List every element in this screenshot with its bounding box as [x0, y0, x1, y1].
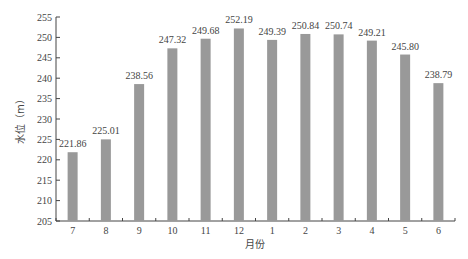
bar-value-label: 221.86	[59, 138, 87, 149]
bar	[134, 84, 144, 221]
bar	[267, 40, 277, 221]
bar	[433, 83, 443, 221]
bar-value-label: 245.80	[391, 41, 419, 52]
x-tick-label: 11	[201, 225, 211, 236]
bar	[101, 139, 111, 221]
x-axis: 789101112123456	[56, 218, 455, 236]
x-tick-label: 9	[137, 225, 142, 236]
bar-value-label: 252.19	[225, 14, 253, 25]
y-axis: 205210215220225230235240245250255	[37, 12, 60, 227]
x-axis-title: 月份	[245, 239, 265, 250]
bar-value-label: 249.21	[358, 27, 386, 38]
y-tick-label: 235	[37, 93, 52, 104]
bar	[367, 41, 377, 221]
bar	[334, 34, 344, 221]
x-tick-label: 12	[234, 225, 244, 236]
bar-value-label: 249.68	[192, 25, 220, 36]
bar	[68, 152, 78, 221]
bar	[234, 28, 244, 221]
y-tick-label: 255	[37, 12, 52, 23]
bar-value-label: 249.39	[258, 26, 286, 37]
y-tick-label: 215	[37, 175, 52, 186]
x-tick-label: 5	[403, 225, 408, 236]
y-tick-label: 245	[37, 52, 52, 63]
x-tick-label: 1	[270, 225, 275, 236]
bar-value-label: 225.01	[92, 125, 120, 136]
x-tick-label: 3	[336, 225, 341, 236]
y-tick-label: 225	[37, 134, 52, 145]
bar-value-label: 250.74	[325, 20, 353, 31]
y-tick-label: 220	[37, 154, 52, 165]
y-tick-label: 205	[37, 216, 52, 227]
bar-value-label: 247.32	[159, 34, 187, 45]
bar-value-label: 250.84	[292, 20, 320, 31]
y-tick-label: 230	[37, 114, 52, 125]
x-tick-label: 4	[369, 225, 374, 236]
y-axis-title: 水位（m）	[14, 94, 26, 144]
data-labels: 221.86225.01238.56247.32249.68252.19249.…	[59, 14, 452, 149]
bar-value-label: 238.56	[125, 70, 153, 81]
x-tick-label: 8	[103, 225, 108, 236]
y-tick-label: 210	[37, 195, 52, 206]
bar-value-label: 238.79	[425, 69, 453, 80]
bar	[201, 39, 211, 221]
x-tick-label: 7	[70, 225, 75, 236]
bar-chart: 205210215220225230235240245250255 789101…	[0, 0, 468, 259]
x-tick-label: 10	[167, 225, 177, 236]
bar	[400, 55, 410, 221]
bar	[300, 34, 310, 221]
y-tick-label: 240	[37, 73, 52, 84]
bars	[68, 28, 444, 221]
bar	[167, 48, 177, 221]
y-tick-label: 250	[37, 32, 52, 43]
x-tick-label: 2	[303, 225, 308, 236]
x-tick-label: 6	[436, 225, 441, 236]
